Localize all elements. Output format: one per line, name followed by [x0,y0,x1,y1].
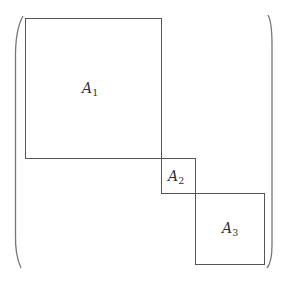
block-a1: A1 [26,19,162,159]
block-a1-label: A1 [80,80,98,98]
block-a3: A3 [196,194,265,265]
right-parenthesis [267,15,272,268]
block-a2: A2 [162,159,196,194]
block-matrix-diagram: A1 A2 A3 [0,0,284,281]
block-a3-label: A3 [220,220,238,238]
block-a2-label: A2 [166,168,184,186]
left-parenthesis [15,16,23,268]
